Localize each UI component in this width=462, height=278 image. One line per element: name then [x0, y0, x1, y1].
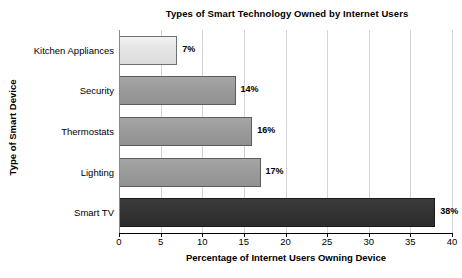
x-tick-mark	[161, 233, 162, 237]
x-tick-mark	[286, 233, 287, 237]
bar-thermostats[interactable]	[119, 117, 252, 146]
chart-title: Types of Smart Technology Owned by Inter…	[118, 8, 456, 19]
x-tick-label: 15	[239, 236, 250, 247]
x-tick-mark	[244, 233, 245, 237]
x-tick-label: 5	[158, 236, 163, 247]
bar-row: 14%	[119, 76, 452, 105]
category-label-lighting: Lighting	[2, 167, 114, 178]
x-tick-label: 25	[322, 236, 333, 247]
category-label-smart-tv: Smart TV	[2, 207, 114, 218]
x-axis-title: Percentage of Internet Users Owning Devi…	[119, 252, 453, 263]
bar-kitchen-appliances[interactable]	[119, 36, 177, 65]
x-tick-mark	[327, 233, 328, 237]
x-tick-label: 30	[363, 236, 374, 247]
gridline	[452, 30, 453, 233]
bar-value-label: 16%	[257, 125, 275, 135]
bar-smart-tv[interactable]	[119, 198, 435, 227]
bar-row: 38%	[119, 198, 452, 227]
bar-chart: Types of Smart Technology Owned by Inter…	[0, 0, 462, 278]
bar-value-label: 7%	[182, 44, 195, 54]
bar-lighting[interactable]	[119, 158, 261, 187]
bar-row: 16%	[119, 117, 452, 146]
x-tick-mark	[202, 233, 203, 237]
y-axis-line	[119, 30, 120, 233]
bar-value-label: 38%	[440, 206, 458, 216]
category-label-security: Security	[2, 85, 114, 96]
x-tick-label: 40	[447, 236, 458, 247]
x-tick-label: 35	[405, 236, 416, 247]
x-tick-mark	[369, 233, 370, 237]
x-tick-label: 20	[280, 236, 291, 247]
category-label-thermostats: Thermostats	[2, 126, 114, 137]
x-tick-label: 0	[116, 236, 121, 247]
x-tick-mark	[119, 233, 120, 237]
x-tick-mark	[452, 233, 453, 237]
bar-row: 17%	[119, 158, 452, 187]
x-tick-label: 10	[197, 236, 208, 247]
bar-security[interactable]	[119, 76, 236, 105]
bar-row: 7%	[119, 36, 452, 65]
bar-value-label: 17%	[266, 166, 284, 176]
bar-value-label: 14%	[241, 84, 259, 94]
plot-area: 7%14%16%17%38%	[119, 30, 452, 233]
x-tick-mark	[410, 233, 411, 237]
category-label-kitchen-appliances: Kitchen Appliances	[2, 45, 114, 56]
x-axis-tick-labels: 0510152025303540	[0, 236, 462, 250]
y-axis-title: Type of Smart Device	[7, 28, 18, 228]
